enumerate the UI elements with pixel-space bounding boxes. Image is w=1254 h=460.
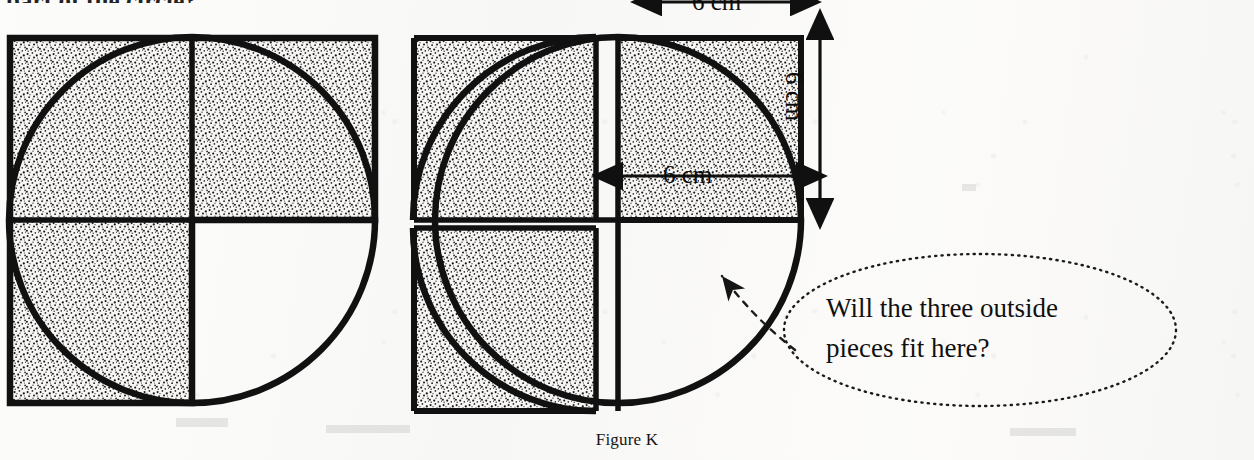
right-quadrant-top-left-fill	[414, 38, 596, 220]
dimension-label-right: 6 cm	[780, 72, 808, 121]
left-diagram	[9, 37, 375, 403]
right-diagram	[413, 37, 801, 411]
figure-k-illustration	[0, 0, 1254, 460]
figure-caption: Figure K	[0, 430, 1254, 450]
left-quadrant-top-left-fill	[10, 38, 192, 220]
dimension-label-inner: 6 cm	[663, 161, 712, 189]
cropped-body-text: part of the circle?	[6, 0, 197, 3]
callout-question-text: Will the three outside pieces fit here?	[826, 288, 1156, 368]
dimension-label-top: 6 cm	[692, 0, 741, 16]
